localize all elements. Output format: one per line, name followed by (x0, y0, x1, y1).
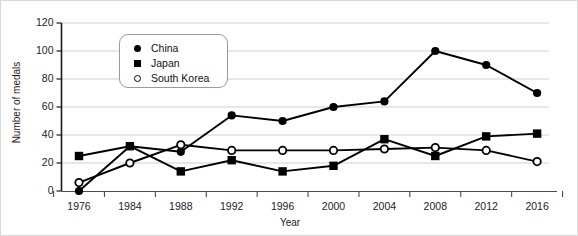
data-point-china (75, 187, 83, 195)
data-point-china (279, 117, 287, 125)
data-point-south-korea (75, 179, 82, 186)
data-point-japan (482, 132, 490, 140)
filled-square-icon (130, 56, 144, 70)
data-point-japan (177, 167, 185, 175)
medals-line-chart: Number of medals Year 120100806040200 19… (0, 0, 578, 236)
legend-item-china: China (130, 41, 178, 55)
data-point-japan (75, 152, 83, 160)
data-point-south-korea (432, 144, 439, 151)
data-point-south-korea (330, 147, 337, 154)
data-point-south-korea (177, 141, 184, 148)
data-point-japan (126, 142, 134, 150)
data-point-japan (380, 135, 388, 143)
data-point-china (329, 103, 337, 111)
filled-circle-icon (130, 41, 144, 55)
data-point-south-korea (381, 145, 388, 152)
data-point-south-korea (228, 147, 235, 154)
open-circle-icon (130, 71, 144, 85)
data-point-japan (533, 129, 541, 137)
data-point-south-korea (126, 159, 133, 166)
data-point-china (533, 89, 541, 97)
legend: ChinaJapanSouth Korea (119, 34, 228, 88)
plot-area (1, 1, 578, 236)
legend-item-japan: Japan (130, 56, 180, 70)
data-point-japan (431, 152, 439, 160)
data-point-south-korea (279, 147, 286, 154)
data-point-china (380, 97, 388, 105)
data-point-japan (228, 156, 236, 164)
legend-item-south-korea: South Korea (130, 71, 209, 85)
data-point-china (482, 61, 490, 69)
series-line-south-korea (79, 145, 537, 183)
data-point-china (228, 111, 236, 119)
data-point-japan (329, 162, 337, 170)
series-line-japan (79, 134, 537, 172)
legend-label: China (151, 42, 178, 54)
data-point-south-korea (483, 147, 490, 154)
legend-label: South Korea (151, 72, 209, 84)
legend-label: Japan (151, 57, 180, 69)
data-point-japan (278, 167, 286, 175)
marker-shape (134, 45, 141, 52)
data-point-south-korea (533, 158, 540, 165)
data-point-china (431, 47, 439, 55)
marker-shape (134, 60, 141, 67)
marker-shape (134, 75, 141, 82)
